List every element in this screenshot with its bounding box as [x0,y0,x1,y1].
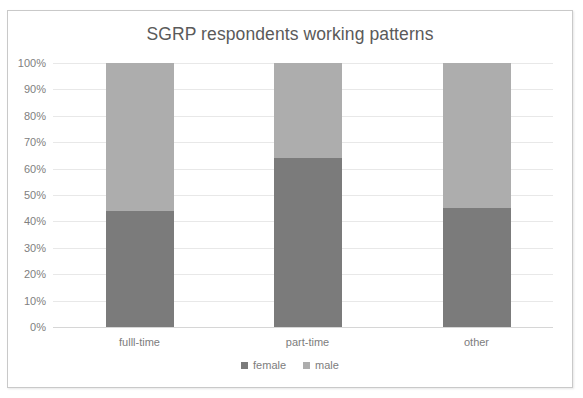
y-axis-tick-label: 30% [24,242,46,254]
y-axis-tick-label: 40% [24,215,46,227]
bar-segment-female[interactable] [274,158,342,327]
bar-group[interactable]: other [443,63,511,327]
chart-title: SGRP respondents working patterns [8,24,572,45]
legend-swatch-male [303,362,310,369]
y-axis-tick-label: 100% [18,57,46,69]
y-axis-tick-label: 90% [24,83,46,95]
x-axis-tick-label: part-time [286,336,329,348]
chart-legend: femalemale [8,359,572,371]
bar-segment-male[interactable] [274,63,342,158]
chart-frame: SGRP respondents working patterns 100%90… [7,10,573,388]
bar-segment-female[interactable] [106,211,174,327]
plot-area: 100%90%80%70%60%50%40%30%20%10%0%fulll-t… [53,63,553,327]
bar-segment-female[interactable] [443,208,511,327]
y-axis-tick-label: 60% [24,163,46,175]
y-axis-tick-label: 0% [30,321,46,333]
x-axis-tick-label: fulll-time [119,336,160,348]
y-axis-tick-label: 10% [24,295,46,307]
bar-segment-male[interactable] [106,63,174,211]
x-axis-tick-label: other [464,336,489,348]
bar-segment-male[interactable] [443,63,511,208]
bar-group[interactable]: fulll-time [106,63,174,327]
legend-item-male[interactable]: male [303,359,339,371]
legend-swatch-female [241,362,248,369]
legend-label-male: male [315,359,339,371]
legend-item-female[interactable]: female [241,359,286,371]
y-axis-tick-label: 70% [24,136,46,148]
y-axis-tick-label: 50% [24,189,46,201]
legend-label-female: female [253,359,286,371]
y-axis-tick-label: 20% [24,268,46,280]
gridline [53,327,553,328]
y-axis-tick-label: 80% [24,110,46,122]
bar-group[interactable]: part-time [274,63,342,327]
